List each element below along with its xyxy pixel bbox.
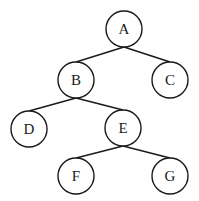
node-label: C: [165, 72, 175, 88]
node-label: A: [119, 21, 130, 37]
edges-group: [29, 47, 170, 158]
node-f: F: [58, 158, 94, 194]
edge-a-c: [124, 47, 170, 62]
edge-b-d: [29, 98, 76, 111]
node-b: B: [58, 62, 94, 98]
node-label: F: [72, 168, 80, 184]
node-d: D: [11, 111, 47, 147]
node-e: E: [105, 110, 141, 146]
node-label: B: [71, 72, 81, 88]
edge-e-g: [123, 146, 170, 158]
node-c: C: [152, 62, 188, 98]
edge-e-f: [76, 146, 123, 158]
tree-diagram: ABCDEFG: [0, 0, 199, 201]
node-label: D: [24, 121, 35, 137]
node-label: E: [118, 120, 127, 136]
edge-b-e: [76, 98, 123, 110]
tree-svg: ABCDEFG: [0, 0, 199, 201]
edge-a-b: [76, 47, 124, 62]
node-label: G: [165, 168, 176, 184]
node-a: A: [106, 11, 142, 47]
nodes-group: ABCDEFG: [11, 11, 188, 194]
node-g: G: [152, 158, 188, 194]
